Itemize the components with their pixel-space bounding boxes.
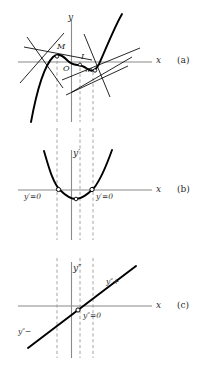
- panel-a-label-inflection: I: [81, 52, 84, 61]
- panel-b-root-left-dot: [56, 187, 60, 191]
- panel-b-root-right-dot: [90, 187, 94, 191]
- panel-a-origin-label: O: [63, 64, 70, 73]
- panel-a-label-maximum: M: [57, 42, 65, 51]
- panel-c: [18, 258, 152, 358]
- panel-c-y-axis-label: y″: [73, 263, 81, 273]
- panel-b-caption: (b): [177, 184, 190, 194]
- panel-b: [18, 128, 152, 240]
- panel-b-x-axis-label: x: [156, 184, 161, 194]
- panel-b-y-axis-label: y′: [73, 148, 80, 158]
- panel-a-x-axis-label: x: [156, 55, 161, 65]
- panel-b-annotation-root-right: y′=0: [96, 192, 113, 201]
- panel-c-x-axis-label: x: [156, 300, 161, 310]
- panel-a-label-minimum: m: [85, 65, 93, 74]
- panel-a-point-max: [55, 55, 58, 58]
- panel-c-annotation-negative: y″−: [18, 327, 31, 336]
- panel-a-caption: (a): [177, 55, 189, 65]
- panel-b-annotation-root-left: y′=0: [24, 192, 41, 201]
- panel-c-root-dot: [76, 308, 80, 312]
- panel-a-cubic-curve: [31, 14, 122, 122]
- panel-a-point-inflection: [79, 63, 82, 66]
- panel-c-second-derivative-line: [28, 266, 136, 348]
- panel-a-point-min: [93, 69, 96, 72]
- panel-c-annotation-zero: y″=0: [83, 311, 101, 320]
- panel-c-caption: (c): [177, 300, 189, 310]
- panel-a-y-axis-label: y: [68, 12, 73, 22]
- panel-b-vertex-dot: [74, 197, 78, 201]
- figure-container: y x (a) M I m O y′ x (b) y′=0 y′=0 y″ x …: [0, 0, 200, 366]
- panel-c-annotation-positive: y″+: [106, 277, 119, 286]
